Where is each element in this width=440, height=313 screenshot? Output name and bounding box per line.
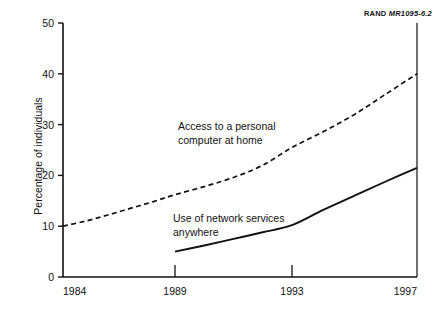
x-tick-label: 1993 [280, 285, 304, 297]
y-tick-label: 30 [42, 119, 54, 131]
plot-canvas: 01020304050 1984198919931997 Access to a… [0, 0, 440, 313]
annotation-access-pc-line1: Access to a personal [178, 120, 275, 132]
annotation-network-use-line1: Use of network services [173, 212, 284, 224]
y-tick-label: 10 [42, 220, 54, 232]
x-tick-label: 1997 [394, 285, 418, 297]
series-line-2 [175, 168, 417, 252]
y-tick-label: 20 [42, 169, 54, 181]
annotation-network-use: Use of network services anywhere [173, 212, 284, 238]
annotation-access-pc-line2: computer at home [178, 134, 263, 146]
annotation-network-use-line2: anywhere [173, 226, 219, 238]
y-tick-label: 0 [48, 271, 54, 283]
y-tick-label: 40 [42, 68, 54, 80]
x-tick-label: 1989 [163, 285, 187, 297]
annotation-access-pc: Access to a personal computer at home [178, 120, 275, 146]
y-axis-ticks: 01020304050 [42, 17, 63, 283]
x-axis-ticks: 1984198919931997 [63, 265, 417, 297]
figure-chart: RAND MR1095-6.2 Percentage of individual… [0, 0, 440, 313]
y-tick-label: 50 [42, 17, 54, 29]
x-tick-label: 1984 [63, 285, 87, 297]
data-series-layer [63, 74, 417, 252]
axis-lines [63, 23, 417, 277]
series-line-1 [63, 74, 417, 226]
